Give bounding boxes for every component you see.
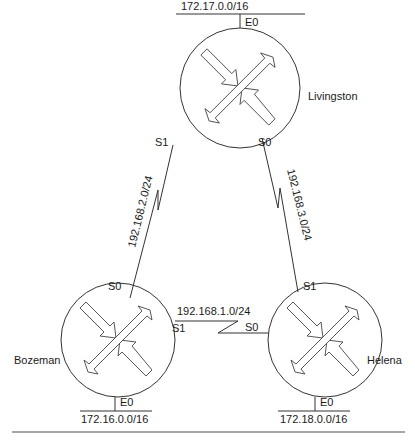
lan-helena: E0 172.18.0.0/16	[278, 396, 350, 425]
lan-bozeman: E0 172.16.0.0/16	[80, 396, 152, 425]
router-helena-label: Helena	[367, 354, 403, 366]
router-helena[interactable]: Helena	[268, 283, 403, 397]
link-livingston-bozeman-network: 192.168.2.0/24	[125, 174, 154, 248]
serial-link-bozeman-helena[interactable]: 192.168.1.0/24 S1 S0	[172, 305, 268, 334]
network-diagram: Livingston 172.17.0.0/16 E0 Bozeman E0 1…	[0, 0, 415, 442]
router-bozeman-label: Bozeman	[14, 354, 60, 366]
bozeman-s1-label: S1	[172, 322, 185, 334]
serial-link-line	[262, 138, 298, 292]
helena-e0-label: E0	[320, 396, 333, 408]
router-livingston[interactable]: Livingston	[180, 28, 358, 148]
lan-bozeman-network: 172.16.0.0/16	[81, 413, 148, 425]
lan-helena-network: 172.18.0.0/16	[280, 413, 347, 425]
router-livingston-label: Livingston	[308, 90, 358, 102]
router-arrows-icon	[287, 302, 359, 376]
livingston-s0-label: S0	[258, 136, 271, 148]
lan-livingston-network: 172.17.0.0/16	[181, 0, 248, 12]
lan-livingston: 172.17.0.0/16 E0	[176, 0, 305, 28]
router-arrows-icon	[201, 49, 275, 125]
livingston-s1-label: S1	[155, 136, 168, 148]
bozeman-s0-label: S0	[108, 280, 121, 292]
router-bozeman[interactable]: Bozeman	[14, 283, 175, 397]
livingston-e0-label: E0	[245, 16, 258, 28]
helena-s0-label: S0	[245, 321, 258, 333]
link-bozeman-helena-network: 192.168.1.0/24	[177, 305, 250, 317]
helena-s1-label: S1	[303, 280, 316, 292]
link-livingston-helena-network: 192.168.3.0/24	[285, 168, 314, 242]
serial-link-livingston-helena[interactable]: 192.168.3.0/24 S0 S1	[258, 136, 316, 292]
serial-link-livingston-bozeman[interactable]: 192.168.2.0/24 S1 S0	[108, 136, 173, 298]
router-arrows-icon	[80, 302, 152, 376]
bozeman-e0-label: E0	[120, 396, 133, 408]
